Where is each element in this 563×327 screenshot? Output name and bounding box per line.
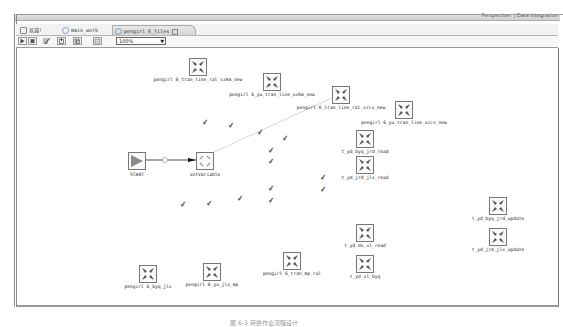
transformation-label: pengirl 6_byq_jlx — [124, 284, 171, 289]
transformation-icon — [490, 229, 506, 245]
set-variable-label: setVariable — [190, 172, 220, 177]
transformation-icon — [357, 256, 373, 272]
transformation-icon — [264, 74, 280, 90]
transformation-label: t_yd_jrd_jlx_update — [472, 247, 525, 252]
transformation-icon — [190, 59, 206, 75]
set-variable-icon — [197, 153, 213, 169]
check-icon: ✔ — [267, 196, 275, 205]
transformation-label: pengirl 6_yu_tran_line_szkm_new — [229, 92, 315, 97]
check-icon: ✔ — [281, 134, 289, 143]
transformation-node[interactable] — [489, 197, 507, 215]
start-label: START — [130, 172, 144, 177]
transformation-node[interactable] — [356, 156, 374, 174]
transformation-node[interactable] — [356, 130, 374, 148]
set-variable-node[interactable] — [196, 152, 214, 170]
transformation-node[interactable] — [203, 263, 221, 281]
transformation-label: pengirl 6_tran_line_ral_szkm_new — [154, 77, 243, 82]
transformation-node[interactable] — [283, 252, 301, 270]
figure-caption: 图 6-3 转换作业流程设计 — [230, 318, 298, 327]
transformation-icon — [204, 264, 220, 280]
check-icon: ✔ — [201, 118, 209, 127]
transformation-icon — [357, 157, 373, 173]
check-icon: ✔ — [205, 199, 213, 208]
transformation-icon — [490, 198, 506, 214]
transformation-icon — [284, 253, 300, 269]
check-icon: ✔ — [267, 157, 275, 166]
transformation-node[interactable] — [263, 73, 281, 91]
transformation-label: t_yd_dx_xl_read — [344, 243, 386, 248]
start-icon — [129, 153, 145, 169]
transformation-icon — [333, 87, 349, 103]
transformation-label: t_yd_byq_jrd_update — [472, 216, 525, 221]
transformation-node[interactable] — [489, 228, 507, 246]
transformation-icon — [140, 266, 156, 282]
transformation-node[interactable] — [356, 224, 374, 242]
check-icon: ✔ — [267, 184, 275, 193]
transformation-icon — [357, 131, 373, 147]
check-icon: ✔ — [319, 173, 327, 182]
transformation-node[interactable] — [395, 101, 413, 119]
transformation-label: pengirl 6_tran_mp_ral — [263, 271, 321, 276]
transformation-label: t_yd_byq_jrd_read — [341, 149, 388, 154]
transformation-node[interactable] — [356, 255, 374, 273]
check-icon: ✔ — [179, 200, 187, 209]
start-node[interactable] — [128, 152, 146, 170]
check-icon: ✔ — [319, 185, 327, 194]
transformation-label: pengirl 6_yu_jlx_mp — [186, 282, 239, 287]
transformation-icon — [357, 225, 373, 241]
check-icon: ✔ — [227, 121, 235, 130]
transformation-icon — [396, 102, 412, 118]
transformation-label: t_yd_jrd_jlx_read — [341, 175, 388, 180]
check-icon: ✔ — [236, 194, 244, 203]
transformation-node[interactable] — [332, 86, 350, 104]
transformation-label: pengirl 6_yu_tran_line_szcs_new — [361, 120, 447, 125]
transformation-node[interactable] — [139, 265, 157, 283]
transformation-label: pengirl 6_tran_line_ral_szcs_new — [297, 105, 386, 110]
transformation-node[interactable] — [189, 58, 207, 76]
transformation-label: t_yd_xl_byq — [350, 274, 380, 279]
check-icon: ✔ — [256, 128, 264, 137]
check-icon: ✔ — [267, 146, 275, 155]
